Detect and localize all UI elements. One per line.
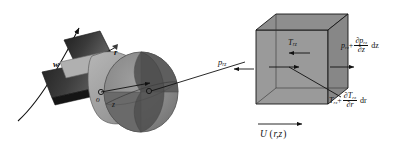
velocity-label: U(r,z) xyxy=(260,130,286,140)
impeller-disc xyxy=(104,52,178,132)
origin-label: o xyxy=(96,96,100,104)
stress-outer-label: Trz+ ∂Trz ∂r dr xyxy=(329,92,367,110)
stress-outer-den-var: r xyxy=(350,100,353,109)
stress-outer-differential: dr xyxy=(360,96,367,105)
velocity-args: r,z xyxy=(274,129,283,139)
axial-axis-label: z xyxy=(112,101,115,109)
stress-inner-label: Trz xyxy=(288,38,297,47)
stress-outer-fraction: ∂Trz ∂r xyxy=(343,92,357,110)
impeller-group xyxy=(18,28,178,132)
pressure-right-num-subscript: rz xyxy=(363,40,367,45)
stress-inner-subscript: rz xyxy=(293,41,297,47)
velocity-symbol: U xyxy=(260,129,267,139)
pressure-right-label: prz+ ∂prz ∂z dz xyxy=(341,37,379,55)
pressure-left-label: prz xyxy=(218,58,226,67)
diagram-vector-canvas xyxy=(0,0,407,148)
stress-outer-denominator: ∂r xyxy=(343,101,357,109)
pressure-right-fraction: ∂prz ∂z xyxy=(354,37,368,55)
radius-label: r xyxy=(114,48,117,57)
angular-velocity-label: w xyxy=(53,60,59,69)
velocity-close-paren: ) xyxy=(283,129,286,139)
pressure-right-differential: dz xyxy=(371,41,379,50)
velocity-open-paren: ( xyxy=(269,129,272,139)
pressure-right-den-var: z xyxy=(362,45,365,54)
pressure-left-subscript: rz xyxy=(222,61,226,67)
stress-outer-plus: + xyxy=(337,96,342,105)
impeller-control-volume-figure: w r o z prz Trz prz+ ∂prz ∂z dz Trz+ ∂Tr… xyxy=(0,0,407,148)
pressure-right-denominator: ∂z xyxy=(354,46,368,54)
stress-outer-num-subscript: rz xyxy=(352,95,356,100)
pressure-right-plus: + xyxy=(349,41,354,50)
